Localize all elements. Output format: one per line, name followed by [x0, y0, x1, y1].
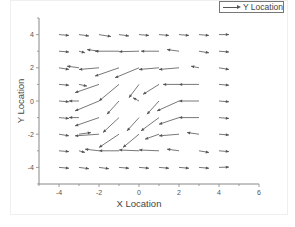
arrowhead-icon — [226, 166, 229, 169]
legend-label: Y Location — [243, 2, 283, 12]
arrowhead-icon — [226, 133, 229, 136]
y-axis-title: Y Location — [15, 79, 26, 124]
x-tick-label: 2 — [177, 189, 181, 196]
arrowhead-icon — [145, 137, 149, 140]
arrowhead-icon — [159, 68, 162, 71]
arrowhead-icon — [126, 166, 129, 169]
arrowhead-icon — [108, 35, 111, 38]
arrowhead-icon — [206, 166, 209, 169]
arrowhead-icon — [79, 68, 82, 71]
arrowhead-icon — [159, 134, 162, 137]
arrowhead-icon — [186, 166, 189, 169]
arrowhead-icon — [226, 150, 229, 153]
vector-arrow — [75, 84, 99, 92]
arrowhead-icon — [146, 166, 149, 169]
arrowhead-icon — [226, 83, 229, 86]
arrowhead-icon — [84, 84, 87, 87]
arrowhead-icon — [191, 65, 194, 68]
arrowhead-icon — [66, 150, 69, 153]
vector-arrow — [99, 84, 119, 101]
y-tick-label: 2 — [30, 64, 34, 71]
arrowhead-icon — [179, 116, 182, 119]
x-tick-label: -2 — [96, 189, 102, 196]
vector-arrow — [103, 118, 119, 133]
arrowhead-icon — [226, 117, 229, 120]
arrowhead-icon — [226, 100, 229, 103]
vector-field-plot: -4-20246420-2-4 X Location Y Location — [0, 0, 295, 227]
vector-arrow — [75, 118, 99, 126]
arrowhead-icon — [119, 149, 122, 152]
arrowhead-icon — [66, 83, 69, 86]
vector-arrow — [99, 134, 119, 147]
y-tick-label: -4 — [28, 164, 34, 171]
arrowhead-icon — [139, 149, 142, 152]
y-tick-label: 4 — [30, 31, 34, 38]
arrowhead-icon — [141, 50, 144, 53]
vector-arrow — [75, 134, 99, 136]
arrowhead-icon — [226, 67, 229, 70]
vector-arrow — [141, 118, 159, 131]
arrowhead-icon — [206, 150, 209, 153]
arrowhead-icon — [66, 50, 69, 53]
arrowhead-icon — [95, 50, 98, 53]
arrowhead-icon — [66, 67, 69, 70]
arrowhead-icon — [163, 83, 166, 86]
arrowhead-icon — [166, 34, 169, 37]
arrowhead-icon — [146, 34, 149, 37]
arrowhead-icon — [166, 166, 169, 169]
vector-arrow — [157, 101, 179, 111]
arrowhead-icon — [75, 123, 79, 126]
arrowhead-icon — [119, 50, 122, 53]
y-tick-label: -2 — [28, 131, 34, 138]
arrowhead-icon — [75, 134, 78, 137]
arrowhead-icon — [159, 122, 163, 125]
arrowhead-icon — [66, 100, 69, 103]
arrowhead-icon — [186, 34, 189, 37]
vector-arrow — [75, 101, 99, 111]
arrowhead-icon — [66, 166, 69, 169]
arrowhead-icon — [179, 83, 182, 86]
arrowhead-icon — [139, 68, 142, 71]
arrowhead-icon — [69, 116, 72, 119]
x-axis-title: X Location — [117, 198, 162, 209]
arrowhead-icon — [66, 134, 69, 137]
arrowhead-icon — [75, 90, 79, 93]
x-tick-label: 4 — [217, 189, 221, 196]
arrowhead-icon — [179, 100, 182, 103]
vector-arrow — [115, 68, 139, 78]
arrowhead-icon — [66, 34, 69, 37]
arrowhead-icon — [206, 34, 209, 37]
arrowhead-icon — [226, 33, 229, 36]
legend: Y Location — [219, 1, 284, 13]
legend-arrow-icon — [223, 7, 239, 8]
arrowhead-icon — [95, 74, 99, 77]
vector-arrows — [59, 33, 229, 170]
arrowhead-icon — [99, 149, 102, 152]
arrowhead-icon — [66, 117, 69, 120]
vector-arrow — [95, 68, 119, 76]
x-tick-label: 0 — [137, 189, 141, 196]
arrowhead-icon — [226, 50, 229, 53]
x-tick-label: 6 — [257, 189, 261, 196]
arrowhead-icon — [206, 51, 209, 54]
arrowhead-icon — [69, 100, 72, 103]
axes: -4-20246420-2-4 — [28, 18, 261, 196]
y-tick-label: 0 — [30, 98, 34, 105]
x-tick-label: -4 — [56, 189, 62, 196]
